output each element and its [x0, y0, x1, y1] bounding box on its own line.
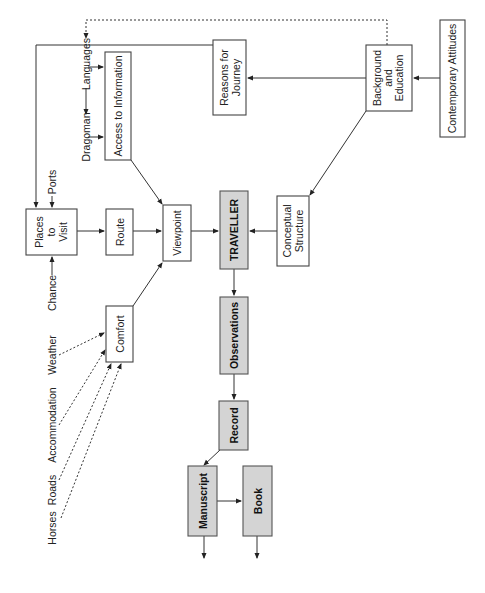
link-horses-comfort: [61, 364, 121, 518]
svg-text:Record: Record: [228, 407, 240, 443]
link-background-conceptual: [310, 111, 366, 195]
svg-text:Conceptual: Conceptual: [281, 204, 293, 257]
label-languages: Languages: [80, 38, 92, 90]
box-access-to-information: Access to Information: [105, 52, 131, 160]
box-comfort: Comfort: [106, 306, 133, 362]
link-weather-comfort: [59, 333, 104, 355]
svg-text:Visit: Visit: [57, 222, 69, 242]
svg-text:Comfort: Comfort: [114, 315, 126, 352]
box-places-to-visit: Places to Visit: [26, 209, 77, 255]
svg-text:Education: Education: [393, 54, 405, 101]
link-access-viewpoint: [131, 160, 162, 204]
link-comfort-viewpoint: [133, 263, 162, 306]
label-chance: Chance: [46, 275, 58, 311]
svg-text:Contemporary Attitudes: Contemporary Attitudes: [446, 24, 458, 134]
label-dragoman: Dragoman: [80, 112, 92, 161]
svg-text:Places: Places: [33, 216, 45, 248]
label-ports: Ports: [46, 170, 58, 195]
link-record-manuscript: [204, 450, 220, 465]
travel-diagram: Places to Visit Route Viewpoint TRAVELLE…: [0, 0, 485, 593]
svg-text:Observations: Observations: [228, 302, 240, 369]
box-book: Book: [243, 466, 272, 536]
label-horses: Horses: [46, 511, 58, 544]
link-roads-comfort: [59, 364, 111, 480]
svg-text:TRAVELLER: TRAVELLER: [228, 198, 240, 261]
box-record: Record: [219, 401, 248, 450]
box-route: Route: [106, 209, 133, 255]
svg-text:Book: Book: [252, 488, 264, 514]
svg-text:Reasons for: Reasons for: [218, 49, 230, 106]
label-accommodation: Accommodation: [46, 387, 58, 462]
svg-text:Viewpoint: Viewpoint: [171, 210, 183, 255]
label-roads: Roads: [46, 475, 58, 505]
svg-text:Structure: Structure: [293, 210, 305, 253]
svg-text:Access to Information: Access to Information: [112, 55, 124, 156]
svg-text:Journey: Journey: [230, 58, 242, 96]
box-conceptual-structure: Conceptual Structure: [277, 196, 309, 266]
box-manuscript: Manuscript: [188, 466, 217, 536]
label-weather: Weather: [46, 335, 58, 375]
box-background-and-education: Background and Education: [366, 45, 412, 111]
box-contemporary-attitudes: Contemporary Attitudes: [440, 20, 465, 137]
svg-text:Manuscript: Manuscript: [197, 472, 209, 529]
box-traveller: TRAVELLER: [220, 191, 248, 269]
box-viewpoint: Viewpoint: [163, 205, 191, 261]
box-reasons-for-journey: Reasons for Journey: [213, 40, 246, 115]
svg-text:Route: Route: [114, 218, 126, 246]
link-accommodation-comfort: [59, 350, 105, 425]
svg-text:to: to: [45, 227, 57, 236]
box-observations: Observations: [220, 297, 248, 374]
